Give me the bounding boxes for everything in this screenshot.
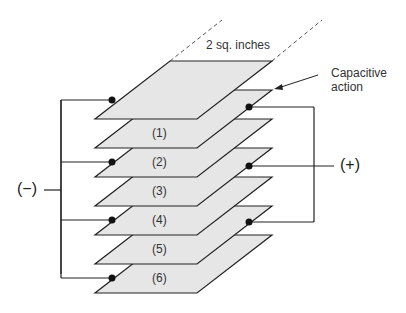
connection-dot [246, 219, 253, 226]
capacitor-plates-diagram: 2 sq. inches Capacitive action (−) (+) (… [0, 0, 406, 313]
plate-label: (3) [152, 184, 167, 198]
plate-stack [95, 61, 272, 293]
area-label: 2 sq. inches [206, 38, 270, 52]
connection-dot [109, 97, 116, 104]
arrow-head-icon [274, 84, 283, 90]
positive-terminal-label: (+) [340, 156, 360, 174]
capacitive-action-annotation: Capacitive action [331, 66, 387, 94]
dashed-dimension-line-right [272, 20, 322, 61]
connection-dot [109, 217, 116, 224]
connection-dot [246, 104, 253, 111]
plate-label: (4) [152, 213, 167, 227]
plate-label: (1) [152, 126, 167, 140]
connection-dot [246, 163, 253, 170]
plate-label: (2) [152, 155, 167, 169]
negative-terminal-label: (−) [17, 180, 37, 198]
connection-dot [109, 275, 116, 282]
connection-dot [109, 159, 116, 166]
plate-label: (5) [152, 242, 167, 256]
plate-label: (6) [152, 271, 167, 285]
